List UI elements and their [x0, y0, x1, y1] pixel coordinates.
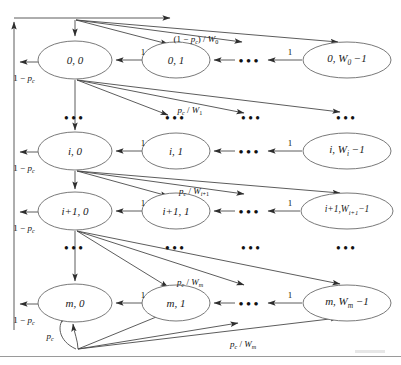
fanout-stage0: [76, 20, 338, 44]
fanout-si0: [75, 171, 340, 196]
diagram-svg: [0, 0, 401, 365]
node-si1W[interactable]: [301, 193, 393, 229]
node-si11[interactable]: [142, 193, 210, 229]
node-s0W[interactable]: [303, 42, 391, 78]
node-sm0[interactable]: [38, 284, 112, 322]
node-si0[interactable]: [38, 132, 112, 170]
node-siW[interactable]: [303, 133, 391, 169]
footer-rule: [0, 356, 401, 357]
node-si10[interactable]: [38, 192, 112, 230]
fanout-stage-m-bottom: [73, 313, 338, 349]
scan-artifact: [355, 350, 385, 353]
node-s01[interactable]: [142, 42, 210, 78]
node-s00[interactable]: [38, 41, 112, 79]
node-si1[interactable]: [142, 133, 210, 169]
node-smW[interactable]: [303, 285, 391, 321]
fanout-si10: [75, 231, 340, 287]
node-sm1[interactable]: [142, 285, 210, 321]
diagram-canvas: 0, 0 0, 1 0, W0 −1 i, 0 i, 1 i, Wi −1 i+…: [0, 0, 401, 365]
success-edges: [20, 62, 38, 304]
fanout-s00: [75, 80, 340, 130]
